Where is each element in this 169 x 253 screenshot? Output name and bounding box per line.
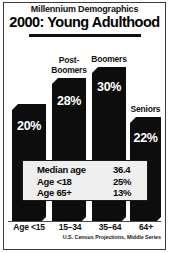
bar-value-age-64-plus: 22% — [130, 132, 161, 145]
bar-group-label-boomers: Boomers — [91, 55, 126, 65]
bar-group-label-boomers-text: Boomers — [91, 54, 126, 64]
stat-value-median-age: 36.4 — [113, 164, 139, 176]
stat-label-age-under-18: Age <18 — [37, 176, 72, 188]
source-note: U.S. Census Projections, Middle Series — [63, 234, 161, 240]
bar-group-label-post-boomers: Post- Boomers — [51, 56, 86, 75]
infographic-chart: Millennium Demographics 2000: Young Adul… — [0, 0, 169, 253]
stat-label-age-65-plus: Age 65+ — [37, 187, 72, 199]
bar-value-age-under-15: 20% — [12, 120, 46, 133]
bar-group-label-line2: Boomers — [51, 65, 86, 75]
bar-group-label-line1: Post- — [59, 55, 79, 65]
bar-value-age-35-64: 30% — [92, 81, 126, 94]
stat-value-age-65-plus: 13% — [113, 187, 139, 199]
stat-value-age-under-18: 25% — [113, 176, 139, 188]
x-axis-tick-age-15-34: 15–34 — [59, 222, 82, 232]
stat-label-median-age: Median age — [37, 164, 86, 176]
stat-row-age-under-18: Age <18 25% — [23, 176, 147, 188]
stat-row-median-age: Median age 36.4 — [23, 164, 147, 176]
x-axis-tick-age-64-plus: 64+ — [139, 222, 153, 232]
bar-group-label-seniors: Seniors — [131, 105, 161, 115]
statistics-callout-box: Median age 36.4 Age <18 25% Age 65+ 13% — [22, 160, 148, 201]
bar-value-age-15-34: 28% — [52, 95, 86, 108]
x-axis-tick-age-35-64: 35–64 — [99, 222, 122, 232]
x-axis-tick-age-under-15: Age <15 — [13, 222, 44, 232]
stat-row-age-65-plus: Age 65+ 13% — [23, 187, 147, 199]
plot-area: 20% 28% Post- Boomers 30% Boomers 22% Se… — [0, 0, 169, 253]
bar-group-label-seniors-text: Seniors — [131, 104, 161, 114]
